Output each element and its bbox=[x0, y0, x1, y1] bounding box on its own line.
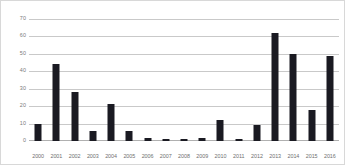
bar-slot bbox=[284, 19, 302, 141]
bar-slot bbox=[47, 19, 65, 141]
y-axis: 010203040506070 bbox=[1, 19, 26, 141]
y-tick-label: 50 bbox=[4, 51, 26, 56]
x-tick-label: 2002 bbox=[69, 153, 81, 159]
x-tick-label: 2016 bbox=[324, 153, 336, 159]
x-tick-label: 2004 bbox=[105, 153, 117, 159]
x-tick-label: 2003 bbox=[87, 153, 99, 159]
bar[interactable] bbox=[108, 104, 115, 141]
x-tick-slot: 2001 bbox=[47, 144, 65, 162]
bar-slot bbox=[175, 19, 193, 141]
bars-group bbox=[29, 19, 339, 141]
x-tick-label: 2005 bbox=[123, 153, 135, 159]
x-tick-label: 2000 bbox=[32, 153, 44, 159]
y-tick-label: 10 bbox=[4, 121, 26, 126]
bar-slot bbox=[138, 19, 156, 141]
y-tick-label: 0 bbox=[4, 138, 26, 143]
bar[interactable] bbox=[162, 139, 169, 141]
y-tick-label: 40 bbox=[4, 68, 26, 73]
bar-slot bbox=[157, 19, 175, 141]
x-tick-slot: 2003 bbox=[84, 144, 102, 162]
bar-slot bbox=[193, 19, 211, 141]
x-tick-label: 2010 bbox=[215, 153, 227, 159]
x-tick-label: 2008 bbox=[178, 153, 190, 159]
plot-area bbox=[29, 19, 339, 141]
y-tick-label: 70 bbox=[4, 16, 26, 21]
bar[interactable] bbox=[53, 64, 60, 141]
bar-slot bbox=[211, 19, 229, 141]
bar-slot bbox=[102, 19, 120, 141]
bar-slot bbox=[230, 19, 248, 141]
y-tick-label: 20 bbox=[4, 103, 26, 108]
x-tick-label: 2012 bbox=[251, 153, 263, 159]
x-tick-slot: 2010 bbox=[211, 144, 229, 162]
bar[interactable] bbox=[272, 33, 279, 141]
x-tick-label: 2014 bbox=[288, 153, 300, 159]
bar[interactable] bbox=[290, 54, 297, 141]
x-tick-slot: 2009 bbox=[193, 144, 211, 162]
bar[interactable] bbox=[326, 56, 333, 141]
x-tick-slot: 2008 bbox=[175, 144, 193, 162]
bar[interactable] bbox=[199, 138, 206, 141]
bar[interactable] bbox=[235, 139, 242, 141]
x-axis: 2000200120022003200420052006200720082009… bbox=[29, 144, 339, 158]
x-tick-label: 2015 bbox=[306, 153, 318, 159]
bar-slot bbox=[120, 19, 138, 141]
bar[interactable] bbox=[126, 131, 133, 141]
x-tick-label: 2006 bbox=[142, 153, 154, 159]
x-tick-label: 2007 bbox=[160, 153, 172, 159]
bar-slot bbox=[84, 19, 102, 141]
bar-chart: 010203040506070 200020012002200320042005… bbox=[0, 0, 345, 165]
x-tick-slot: 2007 bbox=[157, 144, 175, 162]
bar-slot bbox=[321, 19, 339, 141]
x-tick-slot: 2002 bbox=[65, 144, 83, 162]
bar-slot bbox=[65, 19, 83, 141]
x-tick-slot: 2012 bbox=[248, 144, 266, 162]
x-tick-slot: 2015 bbox=[303, 144, 321, 162]
bar[interactable] bbox=[35, 124, 42, 141]
x-tick-label: 2001 bbox=[50, 153, 62, 159]
bar[interactable] bbox=[89, 131, 96, 141]
bar[interactable] bbox=[144, 138, 151, 141]
x-tick-slot: 2013 bbox=[266, 144, 284, 162]
x-tick-slot: 2005 bbox=[120, 144, 138, 162]
bar[interactable] bbox=[71, 92, 78, 141]
x-tick-label: 2009 bbox=[196, 153, 208, 159]
bar-slot bbox=[29, 19, 47, 141]
bar[interactable] bbox=[180, 139, 187, 141]
x-tick-label: 2013 bbox=[269, 153, 281, 159]
bar[interactable] bbox=[253, 125, 260, 141]
x-tick-label: 2011 bbox=[233, 153, 244, 159]
x-tick-slot: 2011 bbox=[230, 144, 248, 162]
bar[interactable] bbox=[217, 120, 224, 141]
y-tick-label: 60 bbox=[4, 33, 26, 38]
x-tick-slot: 2014 bbox=[284, 144, 302, 162]
bar-slot bbox=[248, 19, 266, 141]
x-tick-slot: 2004 bbox=[102, 144, 120, 162]
x-tick-slot: 2006 bbox=[138, 144, 156, 162]
y-tick-label: 30 bbox=[4, 86, 26, 91]
bar[interactable] bbox=[308, 110, 315, 141]
bar-slot bbox=[303, 19, 321, 141]
x-tick-slot: 2000 bbox=[29, 144, 47, 162]
x-tick-slot: 2016 bbox=[321, 144, 339, 162]
bar-slot bbox=[266, 19, 284, 141]
